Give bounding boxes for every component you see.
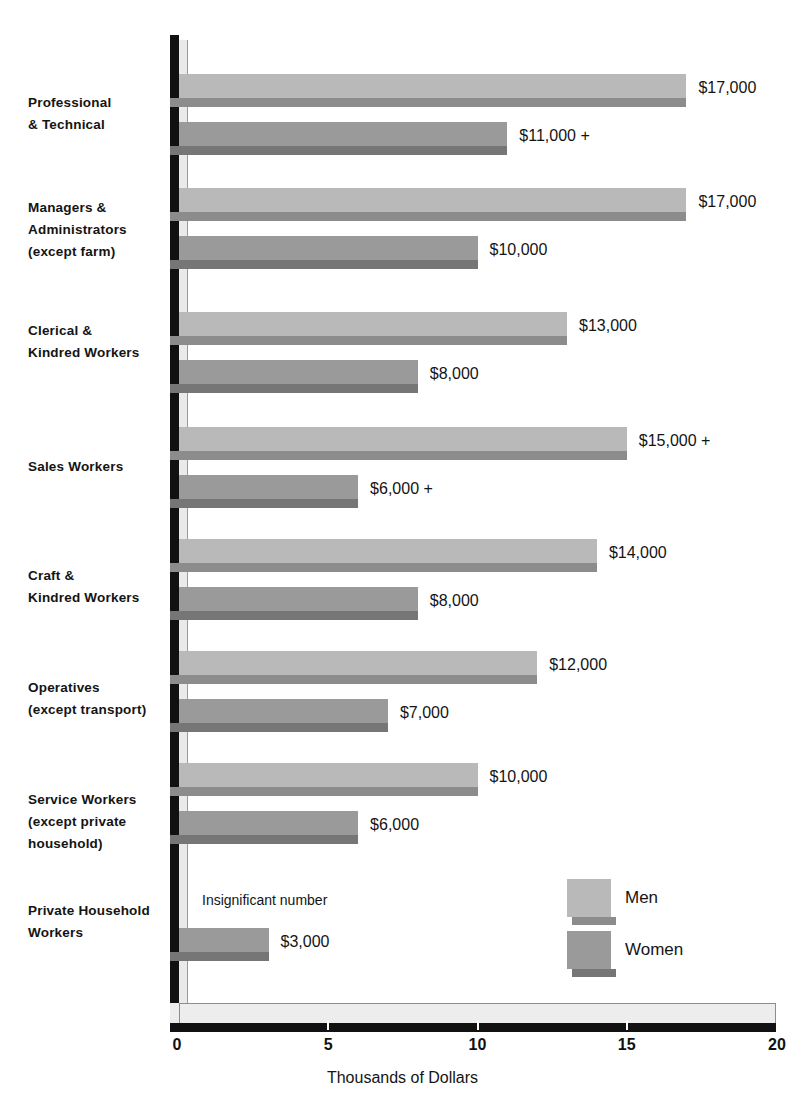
bar-women-endcap-group-7 [260,952,269,961]
value-label-women-group-6: $6,000 [370,817,419,833]
value-label-women-group-5: $7,000 [400,705,449,721]
x-tick-10 [477,1021,479,1030]
bar-men-endcap-group-4 [588,563,597,572]
bar-women-group-5 [179,699,388,723]
value-label-women-group-2: $8,000 [430,366,479,382]
bar-women-group-3 [179,475,358,499]
bar-men-group-5 [179,651,537,675]
legend-label-men: Men [625,888,658,908]
bar-women-endcap-group-6 [349,835,358,844]
value-label-men-group-0: $17,000 [698,80,756,96]
value-label-women-group-7: $3,000 [281,934,330,950]
x-tick-label-5: 5 [324,1036,333,1054]
insignificant-number-note: Insignificant number [202,892,327,908]
category-label-craft: Craft & Kindred Workers [28,565,140,609]
category-label-sales: Sales Workers [28,456,123,478]
bar-women-endcap-group-2 [409,384,418,393]
category-label-professional: Professional & Technical [28,92,111,136]
value-label-men-group-3: $15,000 + [639,433,711,449]
bar-men-shadow-group-0 [170,98,677,107]
value-label-women-group-0: $11,000 + [519,128,589,144]
x-tick-label-20: 20 [768,1036,786,1054]
bar-women-endcap-group-4 [409,611,418,620]
bar-men-group-3 [179,427,627,451]
bar-women-group-0 [179,122,507,146]
category-label-service: Service Workers (except private househol… [28,789,137,855]
value-label-women-group-3: $6,000 + [370,481,433,497]
x-tick-label-0: 0 [173,1036,182,1054]
bar-women-endcap-group-5 [379,723,388,732]
bar-women-group-6 [179,811,358,835]
value-label-women-group-4: $8,000 [430,593,479,609]
x-axis-title: Thousands of Dollars [0,1069,805,1087]
bar-women-shadow-group-2 [170,384,409,393]
legend-swatch-men [567,879,611,917]
bar-women-endcap-group-1 [469,260,478,269]
bar-women-group-4 [179,587,418,611]
bar-men-shadow-group-4 [170,563,588,572]
bar-women-shadow-group-5 [170,723,379,732]
y-axis-side-face [179,40,188,1008]
x-tick-15 [626,1021,628,1030]
bar-men-shadow-group-2 [170,336,558,345]
bar-women-group-1 [179,236,478,260]
bar-men-endcap-group-2 [558,336,567,345]
bar-women-shadow-group-6 [170,835,349,844]
bar-men-endcap-group-3 [618,451,627,460]
bar-women-endcap-group-0 [498,146,507,155]
bar-men-endcap-group-6 [469,787,478,796]
category-label-managers: Managers & Administrators (except farm) [28,197,127,263]
x-tick-5 [327,1021,329,1030]
value-label-men-group-5: $12,000 [549,657,607,673]
bar-women-group-2 [179,360,418,384]
category-label-private-household: Private Household Workers [28,900,150,944]
x-tick-label-10: 10 [469,1036,487,1054]
category-label-operatives: Operatives (except transport) [28,677,146,721]
legend-swatch-men-shadow [572,917,616,925]
bar-men-group-4 [179,539,597,563]
value-label-men-group-4: $14,000 [609,545,667,561]
value-label-men-group-6: $10,000 [490,769,548,785]
bar-women-shadow-group-4 [170,611,409,620]
horizontal-bar-chart: $17,000$11,000 +$17,000$10,000$13,000$8,… [0,0,805,1117]
bar-women-shadow-group-1 [170,260,469,269]
bar-men-group-0 [179,74,686,98]
value-label-men-group-1: $17,000 [698,194,756,210]
bar-men-endcap-group-5 [528,675,537,684]
category-label-clerical: Clerical & Kindred Workers [28,320,140,364]
legend-swatch-women [567,931,611,969]
bar-women-shadow-group-0 [170,146,498,155]
x-tick-label-15: 15 [618,1036,636,1054]
legend-swatch-women-shadow [572,969,616,977]
bar-men-group-6 [179,763,478,787]
bar-men-shadow-group-6 [170,787,469,796]
x-axis-base-shadow [170,1023,776,1032]
bar-women-endcap-group-3 [349,499,358,508]
bar-men-endcap-group-1 [677,212,686,221]
bar-men-shadow-group-3 [170,451,618,460]
y-axis-spine [170,35,179,1010]
bar-men-group-1 [179,188,686,212]
bar-men-group-2 [179,312,567,336]
value-label-women-group-1: $10,000 [490,242,548,258]
value-label-men-group-2: $13,000 [579,318,637,334]
bar-women-group-7 [179,928,269,952]
bar-women-shadow-group-7 [170,952,260,961]
legend-label-women: Women [625,940,683,960]
bar-men-shadow-group-5 [170,675,528,684]
bar-men-shadow-group-1 [170,212,677,221]
bar-men-endcap-group-0 [677,98,686,107]
bar-women-shadow-group-3 [170,499,349,508]
